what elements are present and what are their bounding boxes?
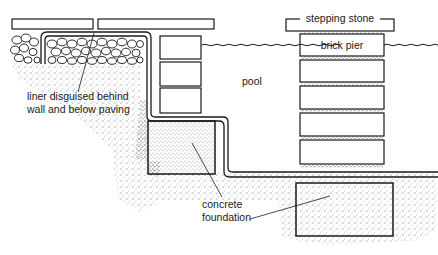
liner-label-line1: liner disguised behind	[27, 90, 129, 102]
pool-label: pool	[242, 75, 262, 87]
rubble-fill	[11, 34, 144, 64]
stepping-stone-label: stepping stone	[306, 12, 374, 24]
stepping-stone: stepping stone	[286, 12, 394, 31]
paving-slabs	[12, 19, 214, 29]
concrete-label-line1: concrete	[202, 198, 242, 210]
pool-cross-section-diagram: stepping stone brick pier pool liner dis…	[0, 0, 438, 255]
brick-pier: brick pier	[300, 31, 384, 168]
concrete-label-line2: foundation	[202, 211, 251, 223]
brick-pier-label: brick pier	[321, 39, 364, 51]
liner-label-line2: wall and below paving	[26, 103, 130, 115]
retaining-wall	[160, 36, 201, 113]
